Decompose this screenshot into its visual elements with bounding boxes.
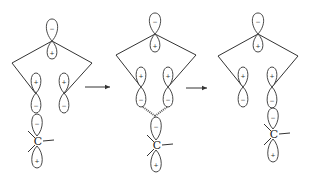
sign-label: + — [255, 42, 260, 49]
sign-label: − — [270, 114, 275, 121]
left-terminal-orbital: + − — [31, 73, 41, 113]
sign-label: + — [33, 78, 38, 85]
sign-label: − — [269, 97, 274, 104]
sign-label: − — [138, 96, 143, 103]
sign-label: − — [240, 96, 245, 103]
orbital-diagram: − + + − + − − + C — [0, 0, 310, 180]
carbon-atom-label: C — [34, 135, 42, 148]
sign-label: + — [152, 42, 157, 49]
carbon-orbital: − + C — [147, 117, 173, 172]
ring-top-orbital: − + — [149, 13, 160, 52]
sign-label: + — [34, 157, 39, 164]
carbon-orbital: − + C — [28, 114, 54, 168]
ring-top-orbital: − + — [46, 19, 57, 59]
ring-top-orbital: − + — [252, 13, 263, 52]
sign-label: + — [49, 49, 54, 56]
sign-label: + — [165, 72, 170, 79]
right-terminal-orbital: + − — [163, 67, 173, 107]
sign-label: − — [152, 18, 157, 25]
sign-label: + — [240, 72, 245, 79]
stage-product: − + + − + − − + C — [218, 13, 298, 162]
sign-label: + — [269, 72, 274, 79]
sign-label: − — [49, 25, 54, 32]
sign-label: − — [34, 120, 39, 127]
sign-label: − — [153, 123, 158, 130]
carbon-atom-label: C — [153, 139, 161, 152]
left-terminal-orbital: + − — [238, 67, 248, 107]
sign-label: − — [61, 102, 66, 109]
sign-label: + — [61, 78, 66, 85]
sign-label: − — [165, 96, 170, 103]
sign-label: − — [255, 18, 260, 25]
stage-transition-state: − + + − + − − + C — [116, 13, 196, 172]
partial-bond-left — [143, 107, 155, 116]
partial-bond-right — [155, 107, 167, 116]
sign-label: + — [270, 151, 275, 158]
sign-label: − — [33, 102, 38, 109]
carbon-bond-right — [279, 133, 290, 134]
carbon-atom-label: C — [270, 128, 278, 141]
sign-label: + — [138, 72, 143, 79]
carbon-orbital: − + C — [264, 108, 290, 162]
carbon-bond-right — [162, 144, 173, 145]
right-terminal-orbital: + − — [59, 73, 69, 113]
right-terminal-orbital: + − — [267, 67, 277, 108]
carbon-bond-right — [43, 140, 54, 141]
sign-label: + — [153, 161, 158, 168]
left-terminal-orbital: + − — [136, 67, 146, 107]
stage-reactant: − + + − + − − + C — [12, 19, 92, 168]
